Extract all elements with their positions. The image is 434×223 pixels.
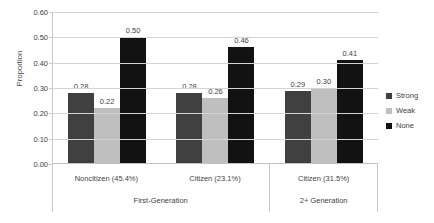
gridline: [53, 113, 378, 114]
legend-swatch-icon: [386, 108, 392, 114]
legend-item-none[interactable]: None: [386, 118, 434, 133]
y-axis-tick-labels: 0.600.500.400.300.200.100.00: [16, 12, 48, 164]
bar-chart: Proportion 0.600.500.400.300.200.100.00 …: [0, 0, 434, 223]
legend-item-weak[interactable]: Weak: [386, 103, 434, 118]
generation-band: First-Generation2+ Generation: [52, 164, 378, 212]
legend-swatch-icon: [386, 123, 392, 129]
bar-strong[interactable]: [176, 93, 202, 164]
generation-separator: [52, 164, 53, 212]
bar-strong[interactable]: [68, 93, 94, 164]
y-axis-tick-label: 0.50: [16, 33, 48, 42]
bar-value-label: 0.28: [182, 82, 197, 91]
bar-value-label: 0.50: [126, 26, 141, 35]
gridline: [53, 63, 378, 64]
generation-label: 2+ Generation: [300, 196, 348, 205]
y-axis-tick-label: 0.60: [16, 8, 48, 17]
legend-label: None: [396, 121, 414, 130]
bar-weak[interactable]: [311, 88, 337, 164]
y-axis-tick-mark: [49, 63, 53, 64]
y-axis-tick-label: 0.40: [16, 58, 48, 67]
gridline: [53, 37, 378, 38]
generation-label: First-Generation: [134, 196, 188, 205]
legend-label: Weak: [396, 106, 415, 115]
gridline: [53, 12, 378, 13]
gridline: [53, 139, 378, 140]
y-axis-tick-mark: [49, 37, 53, 38]
bar-weak[interactable]: [202, 98, 228, 164]
gridline: [53, 88, 378, 89]
legend-swatch-icon: [386, 93, 392, 99]
bar-value-label: 0.30: [317, 77, 332, 86]
generation-separator: [377, 164, 378, 212]
bar-value-label: 0.22: [100, 97, 115, 106]
y-axis-tick-label: 0.20: [16, 109, 48, 118]
bar-value-label: 0.41: [343, 49, 358, 58]
y-axis-tick-label: 0.00: [16, 160, 48, 169]
y-axis-tick-mark: [49, 113, 53, 114]
plot-area: 0.280.220.500.280.260.460.290.300.41: [52, 12, 378, 164]
bar-value-label: 0.28: [74, 82, 89, 91]
bar-weak[interactable]: [94, 108, 120, 164]
y-axis-tick-mark: [49, 12, 53, 13]
bar-strong[interactable]: [285, 91, 311, 164]
y-axis-tick-label: 0.30: [16, 84, 48, 93]
y-axis-tick-label: 0.10: [16, 134, 48, 143]
bar-none[interactable]: [337, 60, 363, 164]
y-axis-tick-mark: [49, 139, 53, 140]
bar-none[interactable]: [228, 47, 254, 164]
generation-separator: [269, 164, 270, 212]
bar-none[interactable]: [120, 37, 146, 164]
legend-label: Strong: [396, 91, 418, 100]
chart-legend: StrongWeakNone: [386, 88, 434, 133]
legend-item-strong[interactable]: Strong: [386, 88, 434, 103]
y-axis-tick-mark: [49, 88, 53, 89]
